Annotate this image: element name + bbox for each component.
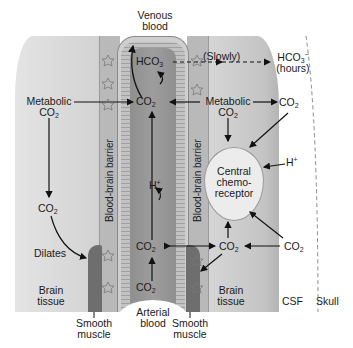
hco3-csf-label: HCO3− (hours): [273, 52, 313, 74]
vessel-co2-mid-label: CO2: [136, 241, 156, 252]
chemoreceptor-label: Central chemo- receptor: [208, 166, 260, 199]
blood-brain-barrier-left-label: Blood-brain barrier: [104, 131, 115, 231]
venous-blood-label: Venousblood: [135, 10, 175, 32]
skull-label: Skull: [316, 296, 339, 307]
metabolic-co2-right-label: Metabolic CO2: [202, 96, 254, 118]
slowly-label: (Slowly): [203, 51, 240, 62]
blood-brain-barrier-right-label: Blood-brain barrier: [192, 131, 203, 231]
brain-tissue-right-label: Braintissue: [216, 285, 246, 307]
dilates-label: Dilates: [34, 248, 66, 259]
csf-co2-bottom-label: CO2: [284, 241, 304, 252]
smooth-muscle-right-label: Smoothmuscle: [170, 318, 210, 340]
smooth-muscle-left-label: Smoothmuscle: [74, 318, 114, 340]
hco3-vessel-label: HCO3: [136, 56, 163, 67]
vessel-co2-top-label: CO2: [136, 96, 156, 107]
tissue-co2-label: CO2: [219, 241, 239, 252]
h-plus-right-label: H+: [286, 157, 298, 168]
metabolic-co2-left-label: Metabolic CO2: [24, 96, 74, 118]
arterial-blood-label: Arterialblood: [132, 307, 174, 329]
csf-co2-top-label: CO2: [279, 97, 299, 108]
left-co2-label: CO2: [38, 203, 58, 214]
csf-label: CSF: [282, 296, 303, 307]
brain-tissue-left-label: Braintissue: [36, 285, 66, 307]
h-plus-vessel-label: H+: [149, 180, 161, 191]
vessel-co2-bottom-label: CO2: [136, 282, 156, 293]
